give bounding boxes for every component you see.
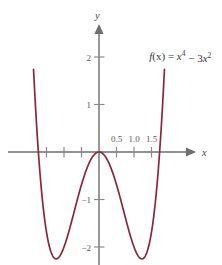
function-label-arg: (x) (152, 50, 165, 63)
plot-canvas: 0.5 1.0 1.5 2 1 −1 −2 x y f(x) = x4 − 3x… (0, 0, 222, 265)
y-tick-label-neg-2: −2 (81, 243, 91, 253)
y-axis-arrowhead (94, 24, 103, 34)
y-tick-label-2: 2 (87, 53, 92, 63)
x-axis-arrowhead (186, 147, 196, 156)
x-tick-label-1_0: 1.0 (128, 134, 140, 144)
x-tick-label-0_5: 0.5 (111, 134, 123, 144)
function-label-minus: − 3 (186, 52, 204, 64)
y-tick-label-1: 1 (87, 100, 92, 110)
function-graph-figure: 0.5 1.0 1.5 2 1 −1 −2 x y f(x) = x4 − 3x… (0, 0, 222, 265)
x-tick-label-1_5: 1.5 (146, 134, 158, 144)
y-tick-label-neg-1: −1 (81, 195, 91, 205)
function-label-exp2: 2 (208, 51, 212, 60)
function-label-equals: = (165, 50, 177, 62)
function-label: f(x) = x4 − 3x2 (130, 49, 222, 65)
x-axis-label: x (201, 147, 207, 158)
y-axis-label: y (94, 10, 100, 21)
